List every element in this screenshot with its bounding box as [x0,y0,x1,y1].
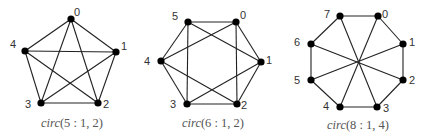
vertex-4 [336,103,343,110]
vertex-4 [157,57,164,64]
caption-args: (5 : 1, 2) [60,116,103,130]
vertex-label-2: 2 [409,74,415,86]
edge-6-7 [311,16,340,44]
edge-3-4 [25,51,41,103]
graph-circ-8-1-4: 01234567 circ(8 : 1, 4) [294,8,415,132]
vertex-label-5: 5 [172,10,178,22]
vertex-5 [184,18,191,25]
vertex-label-1: 1 [409,36,415,48]
vertex-label-0: 0 [240,9,246,21]
vertex-label-4: 4 [323,100,329,112]
vertex-label-0: 0 [74,6,80,18]
vertex-1 [399,40,406,47]
edge-1-4 [25,51,116,52]
vertex-3 [183,100,190,107]
edge-0-1 [378,16,403,44]
edge-0-2 [71,19,98,103]
vertex-label-5: 5 [294,74,300,86]
edge-3-5 [187,22,188,104]
vertex-label-4: 4 [144,55,150,67]
caption-function: circ [41,116,60,130]
edge-2-4 [25,51,98,103]
edge-1-3 [41,52,116,103]
graph-circ-6-1-2: 012345 circ(6 : 1, 2) [144,9,272,130]
graph-nodes: 012345 [144,9,272,111]
vertex-6 [307,40,314,47]
vertex-2 [399,76,406,83]
graph-edges [25,19,116,103]
edge-0-3 [41,19,71,103]
vertex-5 [307,76,314,83]
caption-args: (8 : 1, 4) [346,118,389,132]
vertex-label-1: 1 [121,40,127,52]
vertex-1 [112,48,119,55]
edge-4-5 [161,22,188,61]
graph-caption: circ(8 : 1, 4) [327,118,389,132]
vertex-4 [21,47,28,54]
vertex-label-3: 3 [25,98,31,110]
edge-1-2 [98,52,116,103]
caption-args: (6 : 1, 2) [201,116,244,130]
vertex-2 [233,100,240,107]
vertex-label-7: 7 [324,8,330,20]
vertex-label-3: 3 [383,102,389,114]
vertex-3 [37,99,44,106]
vertex-0 [374,12,381,19]
vertex-label-3: 3 [170,98,176,110]
vertex-label-0: 0 [382,8,388,20]
vertex-1 [257,58,264,65]
vertex-2 [94,99,101,106]
circulant-graphs-figure: 01234 circ(5 : 1, 2) 012345 circ(6 : 1, … [0,0,432,139]
vertex-7 [336,12,343,19]
graph-edges [161,22,261,104]
graph-caption: circ(6 : 1, 2) [182,116,244,130]
graph-caption: circ(5 : 1, 2) [41,116,103,130]
vertex-label-4: 4 [10,38,16,50]
vertex-label-1: 1 [266,54,272,66]
vertex-label-6: 6 [294,36,300,48]
caption-function: circ [182,116,201,130]
vertex-label-2: 2 [103,98,109,110]
edge-1-3 [187,62,261,104]
vertex-0 [232,18,239,25]
edge-4-0 [25,19,71,51]
graph-edges [311,16,403,107]
edge-2-3 [377,80,403,107]
caption-function: circ [327,118,346,132]
vertex-3 [373,103,380,110]
vertex-label-2: 2 [241,99,247,111]
edge-0-1 [236,22,261,62]
edge-0-1 [71,19,116,52]
edge-0-2 [236,22,237,104]
graph-circ-5-1-2: 01234 circ(5 : 1, 2) [10,6,127,130]
